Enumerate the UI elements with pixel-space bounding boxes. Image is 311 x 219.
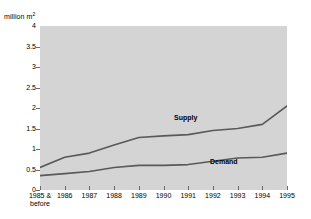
plot-svg bbox=[40, 26, 287, 190]
y-tick-label: 2 bbox=[2, 104, 36, 111]
x-tick-label-line1: 1990 bbox=[156, 192, 172, 199]
x-tick-mark bbox=[114, 186, 115, 190]
series-label-demand: Demand bbox=[210, 158, 238, 165]
line-chart: million m2 00.511.522.533.54 1985 &befor… bbox=[0, 0, 311, 219]
x-tick-label-line1: 1993 bbox=[230, 192, 246, 199]
x-tick-label-line1: 1987 bbox=[82, 192, 98, 199]
x-tick-label-line1: 1989 bbox=[131, 192, 147, 199]
y-tick-label: 4 bbox=[2, 22, 36, 29]
y-tick-label: 2.5 bbox=[2, 84, 36, 91]
x-tick-label-line1: 1986 bbox=[57, 192, 73, 199]
plot-area bbox=[40, 26, 287, 190]
y-tick-label: 3 bbox=[2, 63, 36, 70]
x-tick-label: 1995 bbox=[273, 192, 301, 200]
x-tick-mark bbox=[89, 186, 90, 190]
x-tick-label-line1: 1988 bbox=[106, 192, 122, 199]
x-tick-label-line2: before bbox=[26, 200, 54, 208]
y-tick-label: 3.5 bbox=[2, 43, 36, 50]
y-tick-label: 1 bbox=[2, 145, 36, 152]
x-tick-label-line1: 1991 bbox=[180, 192, 196, 199]
x-tick-mark bbox=[287, 186, 288, 190]
x-tick-mark bbox=[40, 186, 41, 190]
x-tick-mark bbox=[188, 186, 189, 190]
x-axis-ticks: 1985 &before1986198719881989199019911992… bbox=[0, 190, 311, 219]
y-tick-label: 1.5 bbox=[2, 125, 36, 132]
x-tick-label-line1: 1994 bbox=[255, 192, 271, 199]
x-tick-label-line1: 1995 bbox=[279, 192, 295, 199]
y-tick-label: 0.5 bbox=[2, 166, 36, 173]
x-tick-label-line1: 1985 & bbox=[29, 192, 51, 199]
x-tick-mark bbox=[164, 186, 165, 190]
x-tick-mark bbox=[65, 186, 66, 190]
x-tick-mark bbox=[139, 186, 140, 190]
x-tick-mark bbox=[262, 186, 263, 190]
y-axis-ticks: 00.511.522.533.54 bbox=[0, 0, 36, 219]
series-label-supply: Supply bbox=[174, 114, 197, 121]
x-tick-mark bbox=[238, 186, 239, 190]
x-tick-label-line1: 1992 bbox=[205, 192, 221, 199]
x-tick-mark bbox=[213, 186, 214, 190]
series-line-demand bbox=[40, 153, 287, 176]
